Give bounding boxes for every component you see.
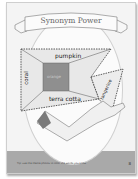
center-word: orange (47, 74, 61, 79)
synonym-left: coral (23, 71, 29, 85)
synonym-bottom: terra cotta (49, 95, 81, 102)
worksheet-page: Synonym Power pumpkin coral orange terra… (6, 2, 136, 174)
synonym-top: pumpkin (55, 52, 81, 59)
worksheet-title: Synonym Power (21, 13, 121, 29)
page-number: 8 (128, 161, 131, 166)
title-ribbon: Synonym Power (21, 13, 121, 29)
footer-text: Tip: use the theme photos to color the w… (17, 162, 86, 165)
